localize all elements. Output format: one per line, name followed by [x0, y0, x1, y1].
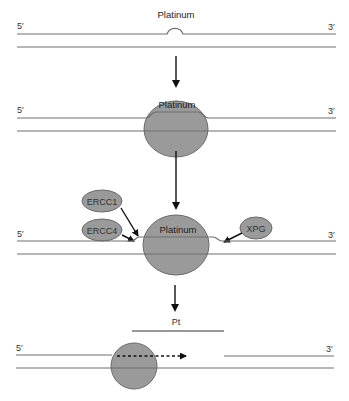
- ercc4-arrow: [122, 235, 134, 241]
- step2-recognition: 5′ 3′ Platinum: [17, 99, 336, 157]
- five-prime-label: 5′: [17, 229, 24, 239]
- three-prime-label: 3′: [326, 344, 333, 354]
- platinum-label: Platinum: [160, 224, 197, 235]
- three-prime-label: 3′: [328, 22, 335, 32]
- five-prime-label: 5′: [17, 21, 24, 31]
- three-prime-label: 3′: [328, 106, 335, 116]
- five-prime-label: 5′: [16, 343, 23, 353]
- ercc1-label: ERCC1: [87, 197, 118, 207]
- ercc1-protein: ERCC1: [82, 190, 122, 212]
- three-prime-label: 3′: [328, 230, 335, 240]
- ercc4-protein: ERCC4: [82, 219, 122, 241]
- five-prime-label: 5′: [17, 105, 24, 115]
- platinum-label: Platinum: [159, 99, 196, 110]
- xpg-label: XPG: [246, 224, 265, 234]
- pt-label: Pt: [172, 317, 181, 327]
- xpg-protein: XPG: [240, 217, 272, 239]
- step4-excision-resynthesis: Pt 5′ 3′: [16, 317, 334, 389]
- step1-adduct: Platinum 5′ 3′: [17, 9, 336, 47]
- top-dna-strand: [17, 28, 336, 34]
- ner-diagram: Platinum 5′ 3′ 5′ 3′ Platinum 5′ 3′ ERCC…: [0, 0, 349, 401]
- ercc1-arrow: [121, 208, 138, 236]
- dna-polymerase: [111, 343, 157, 389]
- ercc4-label: ERCC4: [87, 226, 118, 236]
- platinum-label: Platinum: [158, 9, 195, 20]
